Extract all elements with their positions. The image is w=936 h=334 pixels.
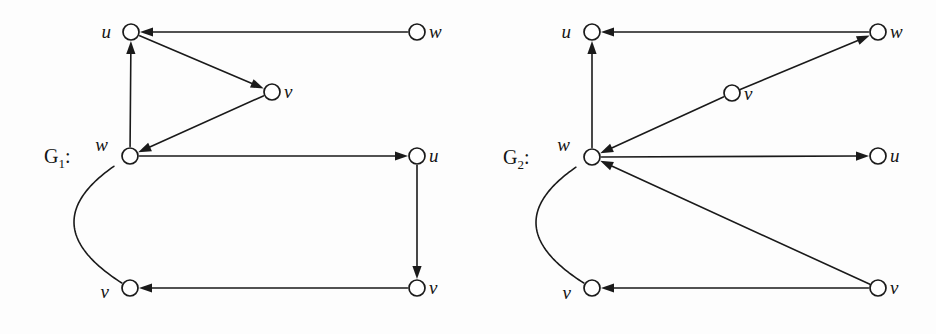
edge-g1-w-topright-to-g1-u-top <box>140 27 408 36</box>
arrow-head <box>600 144 614 154</box>
node-label-g2-v-botright: v <box>890 277 899 298</box>
node-label-g2-w-topright: w <box>890 21 903 42</box>
edge-g1-u-top-to-g1-v-mid <box>140 36 264 89</box>
node-circle-g2-v-botleft[interactable] <box>584 280 600 296</box>
arrow-head <box>138 143 152 153</box>
edge-path <box>601 156 857 157</box>
arrow-head <box>601 27 614 36</box>
node-g2-v-botright[interactable]: v <box>870 277 899 298</box>
arrow-head <box>250 79 264 88</box>
node-g2-v-mid[interactable]: v <box>724 83 753 104</box>
edge-g2-v-botright-to-g2-w-left <box>600 161 869 284</box>
arrow-head <box>126 41 135 54</box>
node-label-g1-v-mid: v <box>284 81 293 102</box>
edge-path <box>149 96 264 148</box>
edge-path <box>741 40 859 89</box>
node-circle-g1-w-topright[interactable] <box>409 24 425 40</box>
edge-g1-w-left-to-g1-u-top <box>126 41 135 147</box>
graph-label-G1: G1: <box>44 145 71 171</box>
edge-g1-w-left-to-g1-u-right <box>140 151 409 160</box>
arrow-head <box>856 35 870 44</box>
edge-path <box>140 36 253 84</box>
graph-label-colon: : <box>65 145 71 167</box>
graph-label-base: G <box>503 146 517 168</box>
node-g1-u-right[interactable]: u <box>409 145 439 166</box>
node-circle-g1-v-botleft[interactable] <box>122 280 138 296</box>
node-circle-g1-u-right[interactable] <box>409 148 425 164</box>
arrow-head <box>412 266 421 279</box>
edge-g2-v-botleft-to-g2-w-left <box>536 152 599 283</box>
edge-g2-v-mid-to-g2-w-left <box>600 97 723 153</box>
node-circle-g2-u-right[interactable] <box>870 148 886 164</box>
node-circle-g1-w-left[interactable] <box>122 148 138 164</box>
edge-g1-v-botleft-to-g1-w-left <box>74 151 137 283</box>
node-label-g1-w-topright: w <box>429 21 442 42</box>
node-label-g1-w-left: w <box>95 134 108 155</box>
graph-label-colon: : <box>524 146 530 168</box>
node-circle-g1-v-mid[interactable] <box>264 84 280 100</box>
digraph-figure: G1:uwvwuvvG2:uwvwuvv <box>0 0 936 334</box>
edge-g1-u-right-to-g1-v-botright <box>412 166 421 280</box>
node-g1-u-top[interactable]: u <box>102 21 140 42</box>
node-label-g1-u-top: u <box>102 21 112 42</box>
edge-g1-v-mid-to-g1-w-left <box>138 96 263 152</box>
edge-path <box>536 167 584 283</box>
node-label-g2-w-left: w <box>557 134 570 155</box>
edge-g2-w-topright-to-g2-u-top <box>601 27 869 36</box>
node-circle-g1-v-botright[interactable] <box>409 280 425 296</box>
node-circle-g2-v-botright[interactable] <box>870 280 886 296</box>
node-circle-g2-w-topright[interactable] <box>870 24 886 40</box>
arrow-head <box>600 161 614 171</box>
node-g1-w-left[interactable]: w <box>95 134 138 164</box>
graph-G2: G2:uwvwuvv <box>503 21 903 303</box>
graph-label-G2: G2: <box>503 146 530 172</box>
node-label-g2-u-top: u <box>562 21 572 42</box>
arrow-head <box>139 283 152 292</box>
node-label-g1-u-right: u <box>429 145 439 166</box>
node-circle-g2-w-left[interactable] <box>584 149 600 165</box>
graph-canvas: G1:uwvwuvvG2:uwvwuvv <box>0 0 936 334</box>
node-g1-w-topright[interactable]: w <box>409 21 442 42</box>
graph-G1: G1:uwvwuvv <box>44 21 442 302</box>
edge-path <box>611 166 870 285</box>
graph-label-base: G <box>44 145 58 167</box>
edge-path <box>611 97 724 149</box>
node-label-g2-v-mid: v <box>744 83 753 104</box>
node-g2-v-botleft[interactable]: v <box>563 280 600 303</box>
arrow-head <box>601 283 614 292</box>
edge-g2-w-left-to-g2-u-top <box>587 41 596 148</box>
node-circle-g2-u-top[interactable] <box>584 24 600 40</box>
edge-g1-v-botright-to-g1-v-botleft <box>139 283 408 292</box>
edge-g2-w-left-to-g2-u-right <box>601 151 869 160</box>
node-g2-u-right[interactable]: u <box>870 145 900 166</box>
arrow-head <box>395 151 408 160</box>
node-circle-g2-v-mid[interactable] <box>724 85 740 101</box>
node-g1-v-mid[interactable]: v <box>264 81 293 102</box>
node-circle-g1-u-top[interactable] <box>123 24 139 40</box>
edge-g2-v-botright-to-g2-v-botleft <box>601 283 869 292</box>
edge-g2-v-mid-to-g2-w-topright <box>741 35 870 89</box>
edge-path <box>74 166 122 283</box>
node-g2-w-left[interactable]: w <box>557 134 600 165</box>
node-label-g2-u-right: u <box>890 145 900 166</box>
node-g2-u-top[interactable]: u <box>562 21 601 42</box>
arrow-head <box>587 41 596 54</box>
node-label-g1-v-botleft: v <box>101 281 110 302</box>
arrow-head <box>140 27 153 36</box>
node-g1-v-botright[interactable]: v <box>409 277 438 298</box>
node-label-g2-v-botleft: v <box>563 282 572 303</box>
node-g2-w-topright[interactable]: w <box>870 21 903 42</box>
arrow-head <box>856 151 869 160</box>
node-label-g1-v-botright: v <box>429 277 438 298</box>
node-g1-v-botleft[interactable]: v <box>101 280 138 302</box>
edge-path <box>130 52 131 146</box>
